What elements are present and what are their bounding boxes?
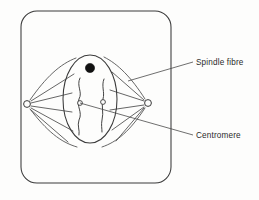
cell-division-figure	[0, 0, 259, 200]
centriole-right	[145, 100, 152, 107]
centriole-left	[24, 101, 31, 108]
cell-membrane	[21, 11, 171, 183]
label-spindle-fibre: Spindle fibre	[196, 58, 243, 67]
nucleolus	[85, 63, 94, 72]
spindle-fibres-left	[31, 74, 74, 142]
chromosome-right-strand	[102, 79, 104, 132]
chromosome-left-strand	[78, 78, 80, 135]
diagram-canvas: Spindle fibre Centromere	[0, 0, 259, 200]
leader-line-centromere	[80, 103, 193, 135]
label-centromere: Centromere	[196, 131, 241, 140]
centromere-right	[101, 100, 106, 105]
leader-line-spindle-fibre	[128, 62, 193, 81]
